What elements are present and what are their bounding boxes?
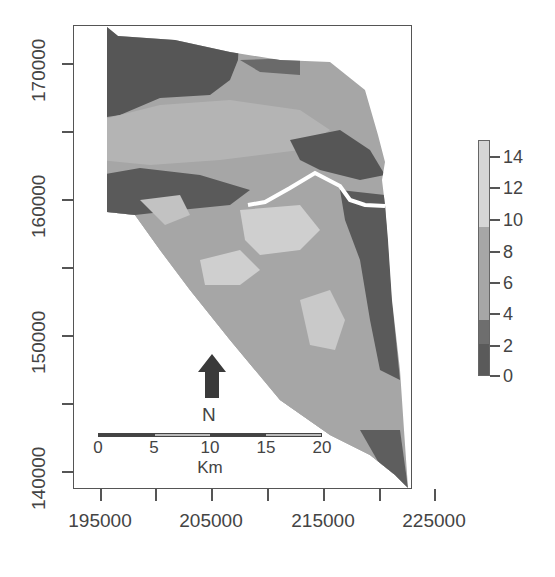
- y-tick: [62, 131, 73, 133]
- scale-label: 20: [313, 438, 332, 458]
- colorbar-label: 12: [503, 178, 523, 199]
- y-axis-label: 140000: [28, 490, 50, 510]
- x-tick: [211, 489, 213, 501]
- colorbar-tick: [490, 251, 500, 253]
- colorbar-band: [479, 141, 489, 227]
- colorbar-band: [479, 227, 489, 321]
- colorbar-tick: [490, 156, 500, 158]
- colorbar-tick: [490, 313, 500, 315]
- y-tick: [62, 63, 73, 65]
- colorbar-tick: [490, 219, 500, 221]
- y-tick: [62, 335, 73, 337]
- north-arrow-icon: [196, 352, 228, 400]
- y-tick: [62, 267, 73, 269]
- raster-map: [0, 0, 555, 577]
- colorbar-tick: [490, 282, 500, 284]
- colorbar-tick: [490, 187, 500, 189]
- x-tick: [323, 489, 325, 501]
- scale-bar: [98, 433, 322, 437]
- colorbar-label: 2: [503, 336, 513, 357]
- colorbar-band: [479, 344, 489, 375]
- y-axis-label: 170000: [28, 82, 50, 102]
- colorbar-tick: [490, 375, 500, 377]
- scale-label: 5: [149, 438, 158, 458]
- y-tick: [62, 403, 73, 405]
- colorbar: [478, 140, 490, 376]
- x-tick: [267, 489, 269, 501]
- scale-label: 15: [257, 438, 276, 458]
- y-axis-label: 160000: [28, 218, 50, 238]
- x-tick: [434, 489, 436, 501]
- colorbar-label: 10: [503, 210, 523, 231]
- colorbar-label: 0: [503, 366, 513, 387]
- scale-label: 10: [201, 438, 220, 458]
- x-tick: [100, 489, 102, 501]
- colorbar-tick: [490, 345, 500, 347]
- scale-unit: Km: [197, 458, 223, 478]
- x-tick: [155, 489, 157, 501]
- x-axis-label: 205000: [179, 510, 242, 532]
- y-axis-label: 150000: [28, 354, 50, 374]
- x-tick: [379, 489, 381, 501]
- x-axis-label: 195000: [68, 510, 131, 532]
- colorbar-label: 14: [503, 147, 523, 168]
- colorbar-label: 4: [503, 304, 513, 325]
- y-tick: [62, 199, 73, 201]
- x-axis-label: 225000: [402, 510, 465, 532]
- north-label: N: [202, 404, 216, 426]
- colorbar-label: 6: [503, 273, 513, 294]
- y-tick: [62, 471, 73, 473]
- scale-label: 0: [93, 438, 102, 458]
- colorbar-band: [479, 320, 489, 343]
- colorbar-label: 8: [503, 242, 513, 263]
- x-axis-label: 215000: [291, 510, 354, 532]
